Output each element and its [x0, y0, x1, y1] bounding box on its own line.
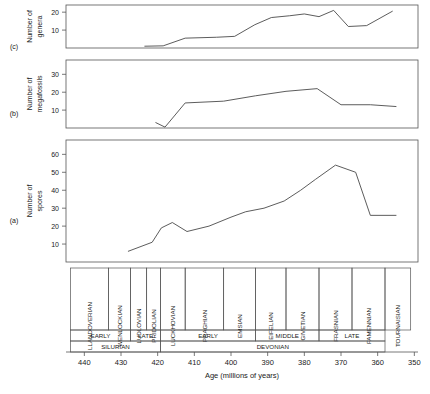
- y-axis-label-2: spores: [36, 190, 44, 212]
- y-tick-label: 10: [51, 241, 59, 248]
- y-tick-label: 40: [51, 187, 59, 194]
- x-axis-label: Age (millions of years): [205, 371, 280, 380]
- period-label: SILURIAN: [101, 343, 130, 350]
- panel-label: (c): [10, 43, 18, 51]
- data-line: [156, 89, 396, 127]
- x-tick-label: 410: [188, 358, 201, 367]
- data-line: [145, 10, 392, 46]
- y-tick-label: 20: [51, 223, 59, 230]
- x-tick-label: 420: [151, 358, 164, 367]
- x-tick-label: 390: [261, 358, 274, 367]
- y-tick-label: 10: [51, 27, 59, 34]
- x-tick-label: 370: [335, 358, 348, 367]
- y-tick-label: 30: [51, 71, 59, 78]
- epoch-label: MIDDLE: [276, 332, 299, 339]
- x-tick-label: 440: [78, 358, 91, 367]
- epoch-label: LATE: [344, 332, 359, 339]
- timescale: LLANDOVERIANWENLOCKIANLUDLOVIANPRIDOLIAN…: [70, 268, 410, 352]
- x-axis: 440430420410400390380370360350Age (milli…: [66, 352, 421, 380]
- y-tick-label: 60: [51, 151, 59, 158]
- y-axis-label: Number of: [26, 10, 33, 43]
- stage-label: EMSIAN: [236, 314, 243, 338]
- panel-label: (b): [10, 110, 19, 118]
- y-tick-label: 20: [51, 9, 59, 16]
- y-tick-label: 30: [51, 205, 59, 212]
- period-label: DEVONIAN: [257, 343, 289, 350]
- y-axis-label-2: genera: [36, 15, 44, 37]
- y-tick-label: 50: [51, 169, 59, 176]
- x-tick-label: 360: [371, 358, 384, 367]
- x-tick-label: 430: [115, 358, 128, 367]
- y-tick-label: 10: [51, 107, 59, 114]
- stage-label: WENLOCKIAN: [116, 305, 123, 347]
- epoch-label: LATE: [138, 332, 153, 339]
- stage-label: LLANDOVERIAN: [86, 302, 93, 350]
- y-axis-label: Number of: [26, 78, 33, 111]
- x-tick-label: 380: [298, 358, 311, 367]
- data-line: [128, 165, 396, 251]
- stage-label: EIFELIAN: [267, 312, 274, 340]
- stage-label: GIVETIAN: [299, 312, 306, 341]
- figure-root: 1020Number ofgenera(c)102030Number ofmeg…: [0, 0, 430, 394]
- panel-c: 1020Number ofgenera(c): [10, 5, 418, 51]
- stage-label: TOURNAISIAN: [394, 305, 401, 347]
- y-axis-label-2: megafossils: [36, 75, 44, 112]
- stage-label: FRASNIAN: [332, 310, 339, 341]
- x-tick-label: 400: [225, 358, 238, 367]
- stage-label: LUCKHOVIAN: [169, 306, 176, 346]
- epoch-label: EARLY: [91, 332, 111, 339]
- y-axis-label: Number of: [26, 185, 33, 218]
- plot-frame: [66, 5, 418, 48]
- panel-a: 102030405060Number ofspores(a): [10, 140, 418, 262]
- x-tick-label: 350: [408, 358, 421, 367]
- plot-frame: [66, 60, 418, 128]
- epoch-label: EARLY: [198, 332, 218, 339]
- y-tick-label: 20: [51, 89, 59, 96]
- stage-label: FAMENNIAN: [365, 308, 372, 344]
- panel-b: 102030Number ofmegafossils(b): [10, 60, 418, 128]
- panel-label: (a): [10, 217, 19, 225]
